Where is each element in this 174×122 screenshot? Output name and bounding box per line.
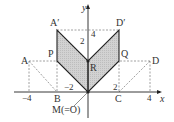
segment-length-2: 2 bbox=[80, 36, 85, 46]
y-axis-label: y bbox=[81, 2, 87, 13]
label-m: M(=O) bbox=[52, 104, 80, 116]
label-a-prime: A′ bbox=[50, 17, 59, 28]
label-a: A bbox=[21, 55, 29, 66]
x-axis-label: x bbox=[159, 93, 165, 104]
tick-y-4: 4 bbox=[91, 29, 96, 39]
label-r: R bbox=[90, 62, 97, 73]
tick-x-2: 2 bbox=[113, 82, 118, 92]
label-c: C bbox=[115, 93, 122, 104]
tick-x-4: 4 bbox=[147, 93, 152, 103]
label-q: Q bbox=[121, 48, 129, 59]
label-d-prime: D′ bbox=[116, 17, 125, 28]
label-p: P bbox=[48, 48, 54, 59]
label-b: B bbox=[54, 93, 61, 104]
tick-x-neg2: −2 bbox=[64, 82, 74, 92]
tick-x-neg4: −4 bbox=[22, 93, 32, 103]
coordinate-diagram: x y A′ D′ P Q R A D B C M(=O) −4 −2 2 4 … bbox=[0, 0, 174, 122]
label-d: D bbox=[152, 55, 159, 66]
y-arrow-icon bbox=[86, 4, 90, 9]
